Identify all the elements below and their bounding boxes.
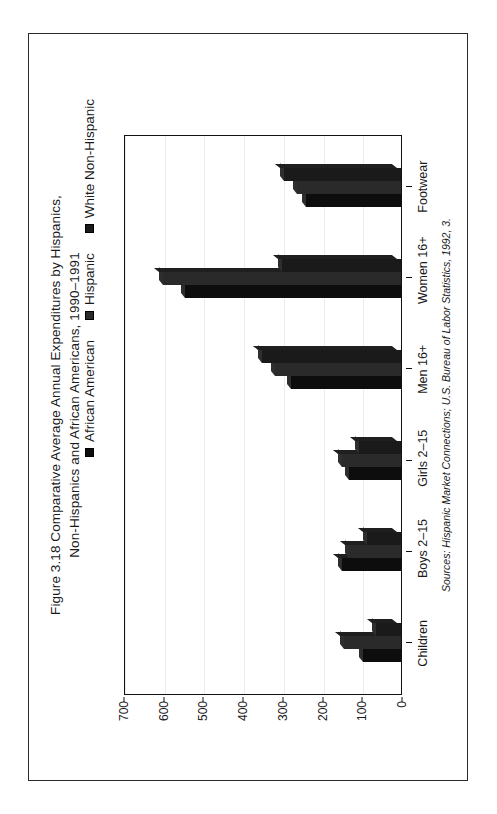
plot-area [124, 135, 402, 695]
bar-rect [349, 545, 401, 558]
y-axis-tick-label-600: 600 [157, 701, 171, 721]
bar-2-1 [125, 454, 401, 467]
bar-group-2 [125, 441, 401, 480]
x-axis-tick-mark-4 [406, 277, 412, 278]
page-frame: Figure 3.18 Comparative Average Annual E… [28, 33, 468, 781]
y-axis-tick-label-100: 100 [355, 701, 369, 721]
bar-3-2 [125, 350, 401, 363]
legend-item-2: White Non-Hispanic [82, 99, 97, 233]
y-axis-tick-mark-400 [243, 697, 244, 702]
bar-group-4 [125, 259, 401, 298]
bar-group-0 [125, 623, 401, 662]
y-axis-tick-mark-0 [402, 697, 403, 702]
y-axis-tick-mark-100 [362, 697, 363, 702]
y-axis-tick-label-200: 200 [316, 701, 330, 721]
bar-4-0 [125, 285, 401, 298]
bar-5-1 [125, 181, 401, 194]
bar-rect [163, 272, 401, 285]
bar-rect [291, 376, 401, 389]
bar-3-1 [125, 363, 401, 376]
bar-rect [282, 259, 401, 272]
y-axis: 0100200300400500600700 [124, 697, 402, 757]
bar-rect [185, 285, 401, 298]
bar-rect [275, 363, 401, 376]
figure-title: Figure 3.18 Comparative Average Annual E… [46, 75, 84, 735]
y-axis-tick-label-300: 300 [276, 701, 290, 721]
bar-rect [367, 532, 401, 545]
bar-rect [376, 623, 401, 636]
x-axis-tick-mark-5 [406, 186, 412, 187]
legend-swatch-white-non-hispanic [85, 224, 94, 233]
bar-rect [342, 454, 401, 467]
bar-rect [359, 441, 401, 454]
bar-rect [284, 168, 401, 181]
y-axis-tick-label-700: 700 [117, 701, 131, 721]
legend-label: African American [82, 340, 97, 442]
legend-item-0: African American [82, 340, 97, 457]
bar-rect [306, 194, 401, 207]
x-axis-tick-mark-3 [406, 368, 412, 369]
x-axis-tick-mark-1 [406, 551, 412, 552]
y-axis-tick-mark-300 [282, 697, 283, 702]
y-axis-tick-mark-600 [163, 697, 164, 702]
bar-1-1 [125, 545, 401, 558]
bar-5-2 [125, 168, 401, 181]
bar-rect [297, 181, 401, 194]
figure-inner: Figure 3.18 Comparative Average Annual E… [38, 57, 458, 757]
bar-2-2 [125, 441, 401, 454]
bar-rect [262, 350, 401, 363]
legend-label: Hispanic [82, 253, 97, 305]
bar-rect [363, 649, 401, 662]
x-axis-tick-mark-0 [406, 642, 412, 643]
y-axis-tick-label-0: 0 [395, 701, 409, 708]
bars-layer [125, 136, 401, 694]
legend-label: White Non-Hispanic [82, 99, 97, 218]
bar-0-0 [125, 649, 401, 662]
bar-4-2 [125, 259, 401, 272]
bar-group-3 [125, 350, 401, 389]
legend-swatch-hispanic [85, 311, 94, 320]
bar-3-0 [125, 376, 401, 389]
bar-rect [349, 467, 401, 480]
legend-swatch-african-american [85, 448, 94, 457]
bar-rect [344, 636, 401, 649]
bar-1-2 [125, 532, 401, 545]
y-axis-tick-mark-200 [322, 697, 323, 702]
bar-0-1 [125, 636, 401, 649]
bar-2-0 [125, 467, 401, 480]
bar-group-5 [125, 168, 401, 207]
figure-rotated-container: Figure 3.18 Comparative Average Annual E… [38, 57, 458, 757]
bar-rect [342, 558, 401, 571]
x-axis-tick-mark-2 [406, 460, 412, 461]
y-axis-tick-label-500: 500 [196, 701, 210, 721]
y-axis-tick-label-400: 400 [236, 701, 250, 721]
chart-legend: African AmericanHispanicWhite Non-Hispan… [82, 99, 97, 457]
legend-item-1: Hispanic [82, 253, 97, 320]
bar-0-2 [125, 623, 401, 636]
y-axis-tick-mark-700 [124, 697, 125, 702]
bar-4-1 [125, 272, 401, 285]
source-note: Sources: Hispanic Market Connections; U.… [440, 75, 452, 735]
bar-group-1 [125, 532, 401, 571]
bar-5-0 [125, 194, 401, 207]
bar-1-0 [125, 558, 401, 571]
y-axis-tick-mark-500 [203, 697, 204, 702]
